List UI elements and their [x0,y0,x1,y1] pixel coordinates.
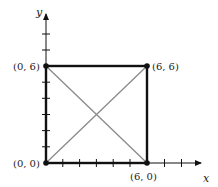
y-axis-label: y [35,6,43,19]
label-0-6: (0, 6) [13,61,40,72]
point-6-6 [144,63,150,69]
point-0-0 [43,160,49,166]
coordinate-diagram: y x (0, 6) (0, 0) (6, 6) (6, 0) [0,0,218,187]
point-6-0 [144,160,150,166]
label-6-0: (6, 0) [130,171,157,182]
diagonals [46,66,147,163]
x-axis-label: x [203,172,210,185]
point-0-6 [43,63,49,69]
label-6-6: (6, 6) [152,61,179,72]
label-0-0: (0, 0) [13,158,40,169]
